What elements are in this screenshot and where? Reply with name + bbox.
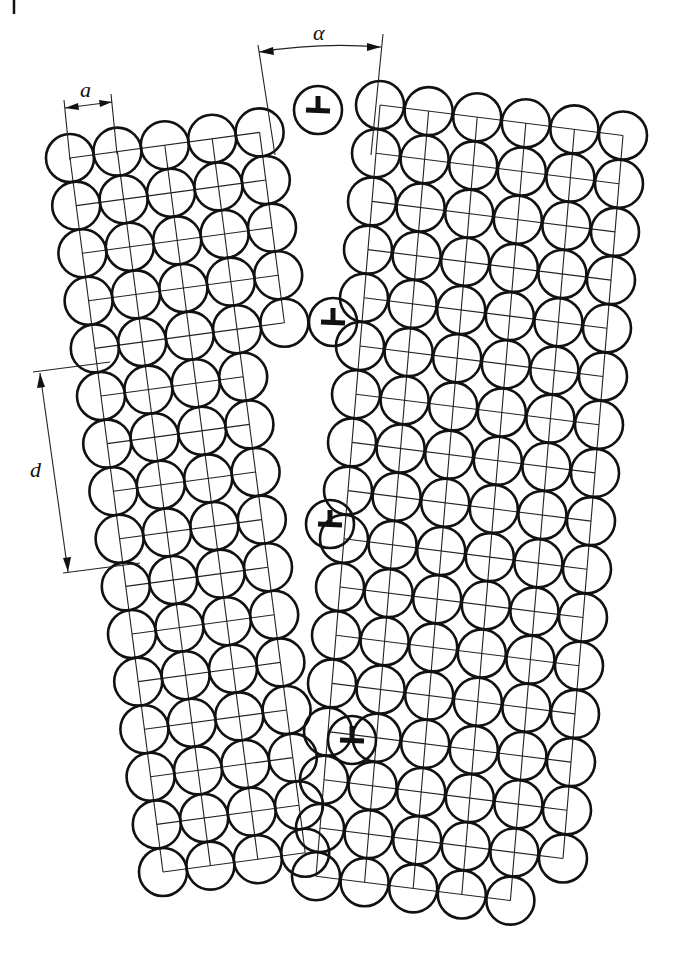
arrowhead-icon bbox=[259, 47, 274, 55]
dimension-d-ext-bottom bbox=[63, 563, 140, 573]
grain-boundary-diagram: a α d bbox=[0, 0, 692, 967]
arrowhead-icon bbox=[37, 373, 45, 388]
dimension-d-ext-top bbox=[33, 362, 110, 372]
edge-dislocation-icon bbox=[306, 96, 330, 111]
arrowhead-icon bbox=[367, 43, 381, 51]
arrowhead-icon bbox=[65, 103, 79, 110]
dimension-alpha-arc bbox=[259, 45, 381, 52]
label-d: d bbox=[30, 457, 42, 482]
arrowhead-icon bbox=[63, 557, 71, 572]
label-a: a bbox=[80, 77, 91, 102]
arrowhead-icon bbox=[99, 100, 112, 107]
dimension-a-ext-left bbox=[64, 100, 70, 160]
label-alpha: α bbox=[313, 20, 325, 45]
edge-dislocation-icon bbox=[321, 308, 345, 323]
dimension-a-ext-right bbox=[111, 94, 117, 154]
dimension-d-line bbox=[40, 373, 68, 572]
